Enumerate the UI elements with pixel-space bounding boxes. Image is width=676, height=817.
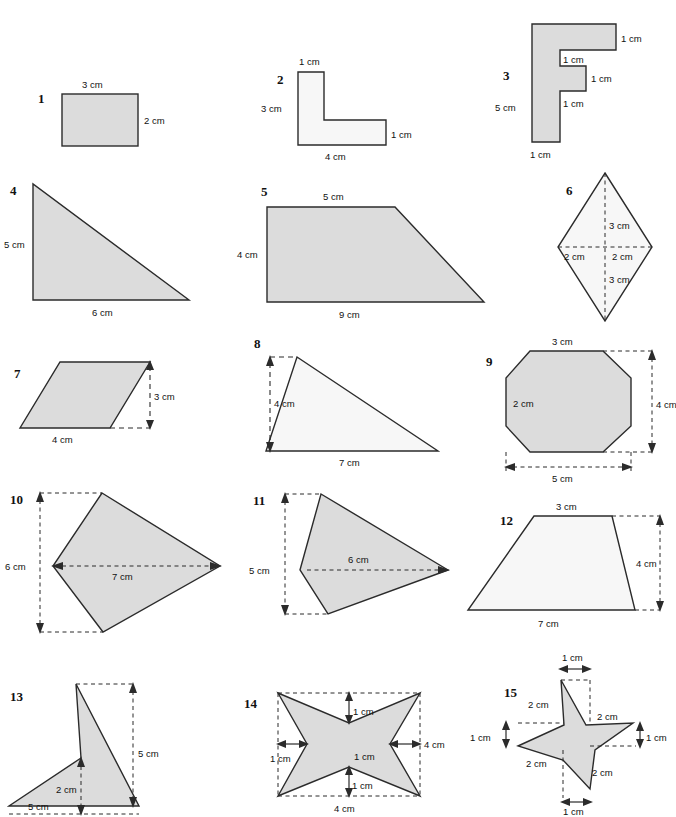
- dimension-label-right: 2 cm: [612, 251, 633, 262]
- shape-five-pointed-star: [518, 680, 633, 789]
- figure-number: 4: [10, 183, 17, 198]
- figure-14: 14 1 cm 1 cm 1 cm 4 cm 1 cm 4 cm: [234, 682, 464, 817]
- dimension-label-bottom-notch: 1 cm: [352, 780, 373, 791]
- arrow-left-icon-bottom: [560, 798, 570, 806]
- dimension-label-left: 4 cm: [237, 249, 258, 260]
- dimension-label-width: 5 cm: [552, 473, 573, 484]
- dimension-label-width: 7 cm: [112, 571, 133, 582]
- dimension-label-height: 6 cm: [5, 561, 26, 572]
- dimension-label-top: 3 cm: [82, 79, 103, 90]
- dimension-label-upper-left: 2 cm: [528, 699, 549, 710]
- dimension-label-inner-upper: 1 cm: [563, 54, 584, 65]
- figure-15: 15 1 cm 2 cm 2 cm 1 cm 1 cm 2 cm 2 cm 1 …: [464, 652, 676, 817]
- dimension-label-height: 3 cm: [154, 391, 175, 402]
- figure-8: 8 4 cm 7 cm: [235, 332, 465, 472]
- shape-trapezoid: [468, 516, 635, 610]
- dimension-label-left: 3 cm: [261, 103, 282, 114]
- dimension-label-height: 4 cm: [424, 739, 445, 750]
- dimension-label-bottom: 4 cm: [325, 151, 346, 162]
- dimension-label-top: 3 cm: [556, 501, 577, 512]
- dimension-label-bottom: 1 cm: [530, 149, 551, 160]
- shape-trapezoid: [267, 207, 484, 302]
- shape-kite-quadrilateral: [300, 494, 448, 614]
- dimension-label-right: 1 cm: [391, 129, 412, 140]
- dimension-label-bottom: 1 cm: [563, 806, 584, 817]
- figure-number: 13: [10, 689, 24, 704]
- dimension-label-upper-right: 1 cm: [621, 33, 642, 44]
- figure-5: 5 5 cm 4 cm 9 cm: [235, 176, 505, 326]
- figure-11: 11 5 cm 6 cm: [243, 482, 463, 640]
- dimension-label-height: 5 cm: [138, 748, 159, 759]
- dimension-label-top: 3 cm: [552, 336, 573, 347]
- arrow-up-icon-left: [502, 720, 510, 730]
- dimension-label-right: 1 cm: [646, 732, 667, 743]
- figure-3: 3 3 cm 1 cm 1 cm 1 cm 1 cm 5 cm 1 cm: [490, 18, 676, 170]
- figure-2: 2 1 cm 3 cm 4 cm 1 cm: [255, 52, 440, 167]
- figure-number: 3: [503, 68, 510, 83]
- dimension-label-height: 4 cm: [636, 558, 657, 569]
- figure-1: 1 3 cm 2 cm: [22, 72, 202, 164]
- dimension-label-notch: 2 cm: [56, 784, 77, 795]
- figure-number: 5: [261, 184, 268, 199]
- figure-number: 7: [14, 366, 21, 381]
- shape-parallelogram: [20, 362, 150, 428]
- figure-number: 1: [38, 91, 45, 106]
- arrow-left-icon-top: [558, 665, 568, 673]
- dimension-label-bottom: 7 cm: [339, 457, 360, 468]
- dimension-label-width: 6 cm: [348, 554, 369, 565]
- arrow-down-icon-left: [502, 739, 510, 749]
- dimension-label-upper-right: 2 cm: [597, 711, 618, 722]
- shape-l-polygon: [298, 72, 386, 145]
- dimension-label-top: 5 cm: [323, 191, 344, 202]
- dimension-label-left: 5 cm: [495, 102, 516, 113]
- dimension-label-inner-right: 1 cm: [591, 73, 612, 84]
- figure-6: 6 3 cm 3 cm 2 cm 2 cm: [534, 166, 676, 328]
- dimension-label-width: 4 cm: [334, 803, 355, 814]
- shape-kite-quadrilateral: [53, 493, 220, 632]
- arrow-down-icon-right: [636, 739, 644, 749]
- dimension-label-height: 5 cm: [249, 565, 270, 576]
- dimension-label-left: 1 cm: [470, 732, 491, 743]
- dimension-label-height: 4 cm: [656, 399, 676, 410]
- arrow-up-icon-right: [636, 721, 644, 731]
- dimension-label-lower: 3 cm: [609, 274, 630, 285]
- worksheet-page: 1 3 cm 2 cm 2 1 cm 3 cm 4 cm 1 cm 3 3 cm…: [0, 0, 676, 817]
- figure-number: 8: [254, 336, 261, 351]
- figure-number: 2: [277, 72, 284, 87]
- figure-number: 14: [244, 696, 258, 711]
- figure-7: 7 3 cm 4 cm: [4, 338, 214, 468]
- figure-number: 12: [500, 513, 513, 528]
- figure-number: 9: [486, 354, 493, 369]
- figure-number: 11: [253, 493, 265, 508]
- dimension-label-upper: 3 cm: [609, 220, 630, 231]
- figure-number: 10: [10, 492, 23, 507]
- dimension-label-top: 3 cm: [552, 18, 573, 19]
- dimension-label-left: 5 cm: [4, 239, 25, 250]
- dimension-label-inner-left: 2 cm: [513, 398, 534, 409]
- figure-number: 6: [566, 183, 573, 198]
- shape-rectangle: [62, 94, 138, 146]
- dimension-label-bottom: 4 cm: [52, 434, 73, 445]
- dimension-label-left: 2 cm: [564, 251, 585, 262]
- shape-right-triangle: [33, 184, 189, 300]
- dimension-label-bottom: 9 cm: [339, 309, 360, 320]
- dimension-label-height: 4 cm: [274, 398, 295, 409]
- dimension-label-lower-left: 2 cm: [526, 758, 547, 769]
- dimension-label-lower-right: 2 cm: [592, 767, 613, 778]
- figure-4: 4 5 cm 6 cm: [2, 172, 212, 322]
- dimension-label-left-notch: 1 cm: [270, 753, 291, 764]
- figure-number: 15: [504, 685, 518, 700]
- arrow-down-icon: [656, 601, 664, 612]
- figure-9: 9 3 cm 2 cm 4 cm 5 cm: [464, 336, 676, 484]
- figure-10: 10 6 cm 7 cm: [2, 482, 232, 640]
- arrow-right-icon-top: [582, 665, 592, 673]
- dimension-label-top: 1 cm: [562, 652, 583, 663]
- figure-13: 13 5 cm 2 cm 5 cm: [2, 658, 232, 817]
- figure-12: 12 3 cm 4 cm 7 cm: [464, 497, 676, 639]
- dimension-label-bottom: 7 cm: [538, 618, 559, 629]
- dimension-label-inner-lower: 1 cm: [563, 98, 584, 109]
- dimension-label-width: 5 cm: [28, 801, 49, 812]
- dimension-label-bottom: 6 cm: [92, 307, 113, 318]
- dimension-label-right: 2 cm: [144, 115, 165, 126]
- dimension-label-top: 1 cm: [299, 56, 320, 67]
